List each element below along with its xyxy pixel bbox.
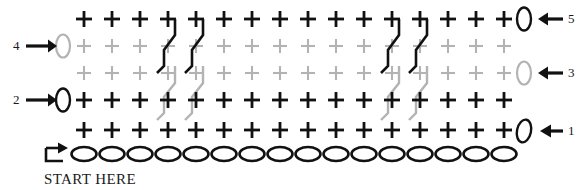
cast-on-oval — [464, 147, 489, 161]
right-marker-row-5 — [517, 8, 563, 31]
cast-on-oval — [324, 147, 349, 161]
stitch-row-4 — [77, 39, 511, 53]
row-marker-oval — [517, 8, 531, 31]
cast-on-oval — [408, 147, 433, 161]
cable-light-left-b — [185, 66, 203, 120]
cast-on-row — [72, 147, 517, 161]
cable-light-right-a — [381, 66, 399, 120]
stitch-plus-group — [76, 11, 512, 27]
knitting-chart: 4 2 5 3 1 START HERE — [0, 0, 582, 190]
cast-on-oval — [240, 147, 265, 161]
stitch-row-3 — [77, 66, 511, 80]
row-number-right-5: 5 — [568, 12, 575, 25]
row-number-left-2: 2 — [13, 93, 20, 106]
start-here-label: START HERE — [44, 172, 136, 187]
row-marker-oval — [517, 62, 531, 85]
stitch-plus-group — [77, 66, 511, 80]
stitch-plus-group — [77, 39, 511, 53]
cast-on-oval — [436, 147, 461, 161]
cast-on-oval — [296, 147, 321, 161]
left-arrow-icon — [540, 125, 551, 138]
cast-on-oval — [352, 147, 377, 161]
right-marker-row-1 — [515, 118, 563, 143]
stitch-row-2 — [76, 92, 512, 108]
row-number-right-1: 1 — [568, 124, 575, 137]
cast-on-oval — [492, 147, 517, 161]
cast-on-oval — [128, 147, 153, 161]
cable-light-right-b — [409, 66, 427, 120]
start-turn-arrow-icon — [46, 143, 68, 162]
cable-light-left-a — [157, 66, 175, 120]
left-arrow-icon — [538, 67, 548, 80]
right-marker-row-3 — [517, 62, 563, 85]
stitch-plus-group — [76, 122, 512, 138]
cast-on-oval — [156, 147, 181, 161]
left-marker-row-4 — [26, 35, 70, 58]
row-marker-oval — [515, 118, 533, 143]
chart-canvas — [0, 0, 582, 190]
cast-on-oval — [100, 147, 125, 161]
cast-on-oval — [184, 147, 209, 161]
left-arrow-icon — [538, 13, 548, 26]
cast-on-oval — [268, 147, 293, 161]
cast-on-oval — [212, 147, 237, 161]
stitch-plus-group — [76, 92, 512, 108]
cast-on-oval — [72, 147, 97, 161]
cast-on-oval — [380, 147, 405, 161]
stitch-row-5 — [76, 11, 512, 27]
row-number-right-3: 3 — [568, 66, 575, 79]
stitch-row-1 — [76, 122, 512, 138]
row-marker-oval — [56, 35, 70, 58]
row-number-left-4: 4 — [13, 39, 20, 52]
left-marker-row-2 — [26, 89, 70, 112]
row-marker-oval — [56, 89, 70, 112]
